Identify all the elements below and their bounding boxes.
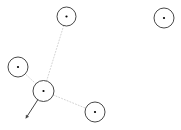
node-center-dot — [65, 15, 67, 17]
node-center-dot — [17, 66, 19, 68]
node-graph-svg — [0, 0, 181, 130]
graph-node[interactable] — [85, 102, 105, 122]
graph-node[interactable] — [57, 7, 76, 26]
graph-edge — [25, 74, 36, 84]
graph-node[interactable] — [8, 57, 28, 77]
graph-node[interactable] — [154, 8, 174, 28]
node-layer — [8, 7, 174, 122]
node-center-dot — [163, 17, 165, 19]
node-center-dot — [42, 90, 44, 92]
graph-edge — [53, 95, 86, 108]
graph-node[interactable] — [33, 81, 54, 102]
node-center-dot — [94, 111, 96, 113]
graph-edge — [47, 26, 64, 81]
scatter-canvas — [0, 0, 181, 130]
